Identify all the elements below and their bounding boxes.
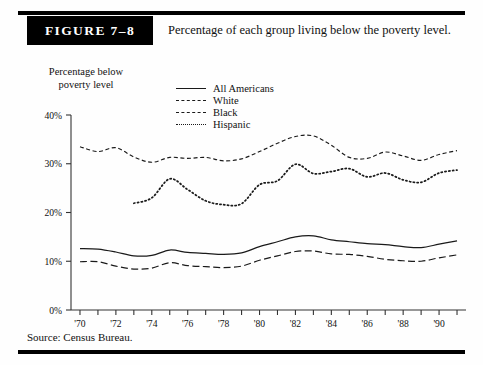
x-tick-label: '78	[218, 318, 230, 329]
x-tick-label: '70	[74, 318, 86, 329]
x-tick-label: '86	[362, 318, 374, 329]
series-line-all-americans	[80, 236, 457, 257]
x-tick-label: '88	[397, 318, 409, 329]
x-tick-label: '76	[182, 318, 194, 329]
series-line-white	[80, 251, 457, 269]
series-line-hispanic	[134, 164, 457, 206]
y-tick-label: 30%	[44, 158, 62, 169]
y-tick-label: 20%	[44, 207, 62, 218]
y-tick-label: 10%	[44, 256, 62, 267]
y-tick-label: 40%	[44, 110, 62, 121]
figure-container: FIGURE 7–8 Percentage of each group livi…	[0, 0, 483, 365]
x-tick-label: '90	[433, 318, 445, 329]
x-tick-label: '80	[254, 318, 266, 329]
source-caption: Source: Census Bureau.	[27, 331, 132, 343]
x-tick-label: '74	[146, 318, 158, 329]
bottom-divider	[18, 350, 465, 354]
poverty-line-chart: 0%10%20%30%40%'70'72'74'76'78'80'82'84'8…	[0, 0, 483, 365]
x-tick-label: '84	[326, 318, 338, 329]
series-line-black	[80, 135, 457, 162]
x-tick-label: '72	[110, 318, 122, 329]
y-tick-label: 0%	[49, 305, 62, 316]
x-tick-label: '82	[290, 318, 302, 329]
